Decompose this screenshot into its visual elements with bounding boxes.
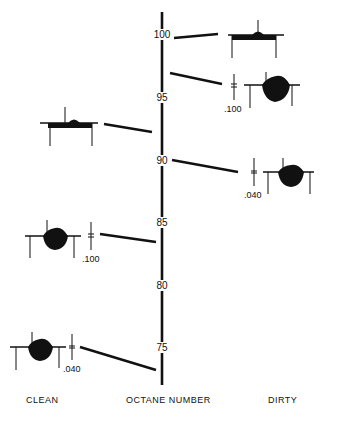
valve-figure-dirty-90 (251, 158, 314, 194)
gap-label-clean-84: .100 (82, 254, 100, 264)
tick-label-75: 75 (155, 342, 168, 353)
valve-figure-dirty-100 (228, 20, 284, 58)
tick-label-80: 80 (155, 280, 168, 291)
category-label-dirty: DIRTY (268, 395, 297, 405)
category-label-clean: CLEAN (26, 395, 59, 405)
gap-label-dirty-90: .040 (244, 190, 262, 200)
valve-figure-clean-93 (40, 107, 98, 146)
tick-label-95: 95 (155, 92, 168, 103)
gap-label-clean-74: .040 (63, 364, 81, 374)
valve-figure-clean-84 (25, 220, 94, 258)
axis-title: OCTANE NUMBER (126, 395, 211, 405)
octane-diagram (0, 0, 337, 422)
valve-figure-dirty-96 (231, 72, 300, 108)
tick-label-100: 100 (153, 29, 172, 40)
tick-label-85: 85 (155, 217, 168, 228)
connector-lines (80, 34, 238, 370)
tick-label-90: 90 (155, 155, 168, 166)
gap-label-dirty-96: .100 (224, 104, 242, 114)
